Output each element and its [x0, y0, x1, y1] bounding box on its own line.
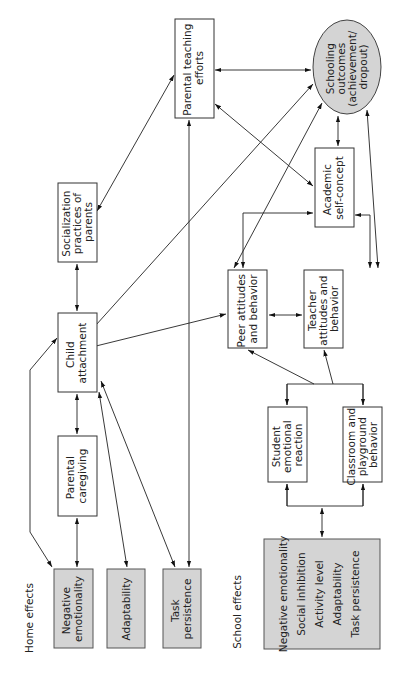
node-label: Peer attitudes — [235, 274, 247, 348]
edge-attachment-peer — [96, 314, 226, 346]
node-school-traits: Negative emotionality Social inhibition … — [264, 536, 380, 652]
node-schooling-outcomes: Schooling outcomes (achievement/ dropout… — [313, 20, 381, 114]
node-label: efforts — [193, 51, 205, 85]
diagram-canvas: Parental teaching efforts Schooling outc… — [0, 0, 397, 691]
node-label: behavior — [367, 421, 379, 468]
node-label: attachment — [76, 323, 88, 384]
svg-text:Peer attitudes and behav: Peer attitudes and behavior — [235, 271, 259, 348]
edge-adaptability-attachment — [99, 392, 127, 567]
trait-label: Adaptability — [331, 562, 343, 625]
node-label: persistence — [181, 579, 193, 640]
node-peer-attitudes: Peer attitudes and behavior — [228, 270, 267, 348]
trait-label: Task persistence — [349, 551, 361, 639]
edge-peer-outcomes — [234, 103, 322, 268]
node-child-attachment: Child attachment — [58, 313, 97, 392]
node-label: Child — [64, 341, 76, 368]
node-label: Adaptability — [120, 577, 132, 640]
edge-socialization-teaching — [97, 75, 174, 211]
svg-text:Parental caregiving: Parental caregiving — [64, 449, 88, 504]
trait-label: Negative emotionality — [277, 536, 289, 652]
svg-text:Student emotional: Student emotional reaction — [270, 417, 304, 473]
node-label: Task — [169, 598, 181, 623]
node-parental-caregiving: Parental caregiving — [58, 436, 97, 516]
svg-text:Adaptability: Adaptability — [120, 577, 132, 640]
node-parental-teaching: Parental teaching efforts — [175, 19, 214, 118]
edge-teacher-outcomes — [367, 110, 378, 268]
node-label: behavior — [328, 285, 340, 332]
node-label: and behavior — [247, 274, 259, 344]
node-label: caregiving — [76, 449, 88, 504]
node-socialization: Socialization practices of parents — [58, 183, 97, 262]
trait-label: Social inhibition — [295, 552, 307, 635]
node-label: parents — [82, 202, 94, 242]
node-label: self-concept — [333, 156, 345, 220]
node-label: dropout) — [357, 44, 369, 89]
edge-academic-teacher — [355, 215, 370, 268]
node-teacher-attitudes: Teacher attitudes and behavior — [304, 270, 343, 348]
edge-negemotion-attachment — [30, 338, 57, 567]
school-top-bracket — [287, 384, 363, 405]
svg-text:Academic self-concept: Academic self-concept — [321, 156, 345, 220]
node-label: Negative — [60, 587, 72, 634]
node-label: Parental teaching — [181, 24, 193, 116]
node-label: reaction — [292, 424, 304, 467]
school-bottom-bracket — [287, 484, 363, 506]
edge-academic-peer — [243, 213, 313, 268]
node-label: emotionality — [72, 576, 84, 642]
node-adaptability: Adaptability — [107, 569, 145, 648]
node-label: Parental — [64, 456, 76, 499]
node-student-emotional-reaction: Student emotional reaction — [268, 407, 307, 482]
node-classroom-behavior: Classroom and playground behavior — [343, 404, 382, 485]
node-negative-emotionality: Negative emotionality — [54, 569, 93, 648]
trait-label: Activity level — [313, 560, 325, 628]
node-academic-self-concept: Academic self-concept — [315, 148, 354, 227]
node-label: Academic — [321, 164, 333, 215]
edge-teaching-academic — [215, 104, 313, 186]
edge-bracket-teacher — [324, 350, 333, 384]
edge-attachment-outcomes — [96, 84, 313, 325]
section-label-home: Home effects — [23, 583, 35, 653]
node-task-persistence: Task persistence — [163, 569, 201, 648]
section-label-school: School effects — [231, 575, 243, 649]
svg-text:Negative emotionality: Negative emotionality — [60, 576, 84, 642]
edge-bracket-peer — [248, 350, 314, 384]
